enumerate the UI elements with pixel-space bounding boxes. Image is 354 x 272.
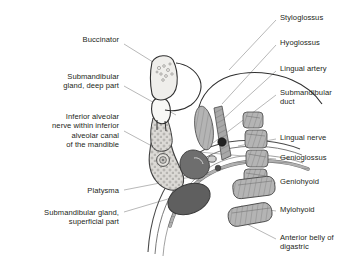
label-anterior-belly-of-digastric: Anterior belly of digastric: [280, 233, 354, 252]
canal-vessel: [162, 159, 165, 162]
label-genioglossus: Genioglossus: [280, 153, 352, 162]
label-inferior-alveolar-nerve: Inferior alveolar nerve within inferior …: [11, 112, 119, 150]
lingual-artery: [218, 138, 226, 146]
label-lingual-artery: Lingual artery: [280, 64, 352, 73]
maxillary-bone-fragment: [151, 56, 178, 100]
label-hyoglossus: Hyoglossus: [280, 38, 352, 47]
label-styloglossus: Styloglossus: [280, 13, 352, 22]
genioglossus-muscle: [243, 112, 268, 185]
submandibular-gland-deep-part: [180, 150, 209, 179]
lingual-nerve: [215, 165, 221, 171]
label-submandibular-duct: Submandibular duct: [280, 88, 352, 107]
styloglossus-muscle: [192, 105, 216, 151]
geniohyoid-muscle: [232, 176, 276, 200]
submandibular-duct: [208, 156, 216, 162]
label-platysma: Platysma: [54, 186, 119, 195]
leader-line-styloglossus: [229, 20, 276, 70]
label-mylohyoid: Mylohyoid: [280, 205, 352, 214]
anterior-belly-of-digastric: [227, 201, 274, 227]
label-lingual-nerve: Lingual nerve: [280, 133, 352, 142]
label-submandibular-gland-superficial-part: Submandibular gland, superficial part: [5, 208, 119, 227]
label-geniohyoid: Geniohyoid: [280, 177, 352, 186]
label-buccinator: Buccinator: [45, 35, 119, 44]
label-submandibular-gland-deep-part: Submandibular gland, deep part: [24, 72, 119, 91]
